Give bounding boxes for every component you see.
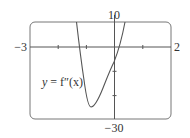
curve-label-eq: = f″(x) bbox=[47, 75, 83, 89]
curve-label: y = f″(x) bbox=[41, 75, 83, 89]
y-max-label: 10 bbox=[108, 8, 120, 22]
curve-f-double-prime bbox=[77, 22, 126, 107]
y-min-label: −30 bbox=[105, 121, 124, 135]
plot-frame bbox=[30, 22, 171, 119]
x-min-label: −3 bbox=[14, 40, 27, 54]
x-max-label: 2 bbox=[174, 40, 180, 54]
chart: −3 2 10 −30 y = f″(x) bbox=[0, 0, 190, 138]
